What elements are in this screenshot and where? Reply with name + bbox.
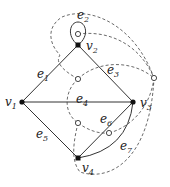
dual-vertex-top-face (75, 76, 80, 81)
label-v1: v1 (5, 95, 17, 111)
vertex-v2 (76, 43, 81, 48)
dual-vertex-outer-face (151, 75, 156, 80)
dual-graph-diagram: v1 v2 v3 v4 e1 e2 e3 e4 e5 e6 e7 (0, 0, 170, 187)
vertex-v4 (76, 156, 81, 161)
label-v4: v4 (82, 161, 94, 177)
edge-e3 (78, 45, 133, 102)
label-e7: e7 (120, 139, 133, 155)
label-v3: v3 (140, 96, 152, 112)
edge-e1 (22, 45, 78, 102)
label-e4: e4 (76, 92, 88, 108)
label-e6: e6 (100, 112, 112, 128)
edge-e5 (22, 102, 78, 158)
label-e1: e1 (37, 67, 49, 83)
dual-vertex-lower-face (75, 120, 80, 125)
label-v2: v2 (86, 39, 98, 55)
dual-vertex-e6e7-face (106, 130, 111, 135)
label-e5: e5 (36, 127, 48, 143)
dual-edge-e5 (74, 78, 154, 174)
label-e2: e2 (77, 8, 89, 24)
edge-labels: e1 e2 e3 e4 e5 e6 e7 (36, 8, 133, 155)
vertex-v3 (130, 99, 135, 104)
vertex-v1 (19, 99, 24, 104)
label-e3: e3 (107, 63, 119, 79)
dual-vertex-loop-face (75, 31, 80, 36)
